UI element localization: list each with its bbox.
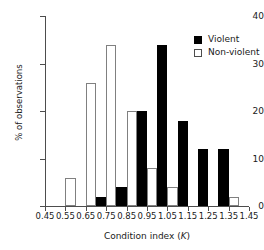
legend-label-violent: Violent [208, 35, 239, 44]
bar-violent-0.85-0.95 [137, 111, 147, 206]
bar-violent-1.15-1.25 [198, 149, 208, 206]
y-tick-label-40: 40 [228, 12, 264, 21]
x-tick-label-10: 1.45 [232, 212, 264, 221]
legend-label-nonviolent: Non-violent [208, 48, 260, 57]
y-tick-40 [40, 16, 45, 17]
bar-nonviolent-1.35-1.45 [229, 197, 239, 207]
bar-violent-0.75-0.85 [116, 187, 126, 206]
bar-nonviolent-0.85-0.95 [127, 111, 137, 206]
legend-item-violent: Violent [194, 33, 260, 46]
bar-nonviolent-0.55-0.65 [65, 178, 75, 207]
bar-nonviolent-0.95-1.05 [147, 168, 157, 206]
bar-nonviolent-0.65-0.75 [86, 83, 96, 207]
histogram-figure: 0 10 20 30 40 0.45 0.55 0.65 0.75 0.85 0… [0, 0, 264, 250]
bar-nonviolent-1.05-1.15 [167, 187, 177, 206]
y-tick-label-20: 20 [228, 107, 264, 116]
bar-violent-1.25-1.35 [218, 149, 228, 206]
bar-violent-1.05-1.15 [178, 121, 188, 207]
y-axis-line [45, 16, 46, 206]
y-tick-label-10: 10 [228, 155, 264, 164]
legend-swatch-violent-icon [194, 36, 202, 44]
legend-swatch-nonviolent-icon [194, 49, 202, 57]
y-axis-title: % of observations [15, 43, 24, 163]
y-tick-10 [40, 159, 45, 160]
x-axis-title-symbol: K [181, 231, 187, 241]
bar-violent-0.65-0.75 [96, 197, 106, 207]
legend-item-nonviolent: Non-violent [194, 46, 260, 59]
y-tick-20 [40, 111, 45, 112]
bar-violent-0.95-1.05 [157, 45, 167, 207]
x-axis-title-text: Condition index [104, 231, 174, 241]
x-axis-title: Condition index (K) [45, 231, 249, 241]
plot-area: 0 10 20 30 40 0.45 0.55 0.65 0.75 0.85 0… [0, 0, 264, 250]
y-tick-30 [40, 64, 45, 65]
bar-nonviolent-0.75-0.85 [106, 45, 116, 207]
legend: Violent Non-violent [194, 33, 260, 59]
y-tick-label-30: 30 [228, 60, 264, 69]
